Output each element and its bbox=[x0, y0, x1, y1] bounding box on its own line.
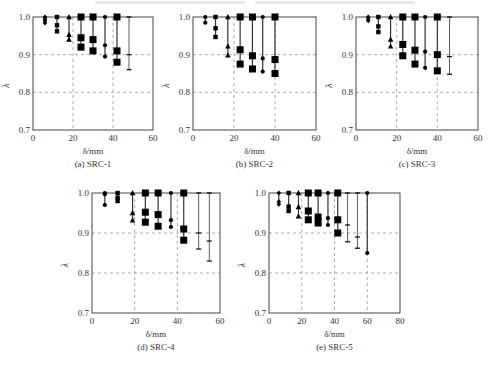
y-axis-label: λ bbox=[59, 262, 70, 268]
big-square-marker bbox=[78, 34, 85, 41]
grid-lines bbox=[92, 193, 220, 313]
x-tick-label: 60 bbox=[149, 133, 159, 143]
circle-marker bbox=[326, 216, 330, 220]
big-square-marker bbox=[114, 47, 121, 54]
chart-c: 02040600.70.80.91.0δ/mmλ(c) SRC-3 bbox=[323, 12, 483, 169]
big-square-marker bbox=[142, 209, 149, 216]
data-group bbox=[296, 190, 302, 218]
chart-d: 02040600.70.80.91.0δ/mmλ(d) SRC-4 bbox=[59, 188, 225, 352]
x-tick-label: 40 bbox=[271, 133, 281, 143]
x-tick-label: 40 bbox=[109, 133, 119, 143]
triangle-marker bbox=[66, 37, 72, 42]
data-group bbox=[315, 190, 322, 227]
y-axis-label: λ bbox=[236, 262, 247, 268]
data-group bbox=[423, 15, 427, 70]
y-axis-label: λ bbox=[160, 83, 171, 89]
big-square-marker bbox=[249, 52, 256, 59]
big-square-marker bbox=[305, 190, 312, 197]
triangle-marker bbox=[296, 213, 302, 218]
data-group bbox=[90, 14, 97, 55]
y-tick-label: 0.8 bbox=[179, 87, 191, 97]
big-square-marker bbox=[155, 190, 162, 197]
circle-marker bbox=[423, 50, 427, 54]
x-tick-label: 60 bbox=[474, 133, 484, 143]
big-square-marker bbox=[78, 44, 85, 51]
big-square-marker bbox=[114, 14, 121, 21]
data-group bbox=[434, 14, 441, 75]
small-square-marker bbox=[115, 191, 119, 195]
data-group bbox=[237, 14, 244, 68]
big-square-marker bbox=[180, 237, 187, 244]
circle-marker bbox=[261, 70, 265, 74]
data-group bbox=[326, 191, 330, 227]
small-square-marker bbox=[55, 23, 59, 27]
big-square-marker bbox=[155, 211, 162, 218]
data-group bbox=[115, 191, 119, 203]
data-group bbox=[155, 190, 162, 230]
data-group bbox=[399, 14, 406, 60]
data-group bbox=[55, 15, 59, 34]
triangle-marker bbox=[296, 204, 302, 209]
data-group bbox=[366, 15, 371, 24]
big-square-marker bbox=[180, 190, 187, 197]
grid-lines bbox=[193, 17, 316, 130]
y-tick-label: 0.7 bbox=[179, 125, 191, 135]
data-group bbox=[355, 193, 360, 248]
big-square-marker bbox=[434, 67, 441, 74]
data-group bbox=[196, 193, 201, 249]
chart-caption: (c) SRC-3 bbox=[399, 159, 436, 169]
triangle-marker bbox=[388, 43, 394, 48]
x-axis-label: δ/mm bbox=[324, 329, 345, 339]
chart-b: 02040600.70.80.91.0δ/mmλ(b) SRC-2 bbox=[160, 12, 321, 169]
y-axis-label: λ bbox=[0, 83, 11, 89]
plot-frame bbox=[92, 193, 220, 313]
data-group bbox=[103, 191, 107, 207]
big-square-marker bbox=[315, 214, 322, 221]
big-square-marker bbox=[237, 61, 244, 68]
x-tick-label: 0 bbox=[354, 133, 359, 143]
circle-marker bbox=[103, 54, 107, 58]
y-tick-label: 0.9 bbox=[19, 50, 31, 60]
chart-a: 02040600.70.80.91.0δ/mmλ(a) SRC-1 bbox=[0, 12, 158, 169]
chart-caption: (d) SRC-4 bbox=[137, 342, 175, 352]
big-square-marker bbox=[411, 14, 418, 21]
data-group bbox=[447, 17, 452, 74]
x-tick-label: 20 bbox=[69, 133, 79, 143]
small-square-marker bbox=[115, 199, 119, 203]
y-tick-label: 0.9 bbox=[342, 50, 354, 60]
small-square-marker bbox=[213, 15, 217, 19]
big-square-marker bbox=[249, 14, 256, 21]
circle-marker bbox=[169, 225, 173, 229]
big-square-marker bbox=[399, 14, 406, 21]
big-square-marker bbox=[155, 223, 162, 230]
chart-e: 0204060800.70.80.91.0δ/mmλ(e) SRC-5 bbox=[236, 188, 405, 352]
circle-marker bbox=[103, 43, 107, 47]
big-square-marker bbox=[90, 36, 97, 43]
big-square-marker bbox=[434, 14, 441, 21]
grid-lines bbox=[356, 17, 478, 130]
big-square-marker bbox=[334, 190, 341, 197]
big-square-marker bbox=[237, 14, 244, 21]
big-square-marker bbox=[142, 190, 149, 197]
chart-caption: (b) SRC-2 bbox=[236, 159, 273, 169]
y-tick-label: 1.0 bbox=[19, 12, 31, 22]
chart-caption: (e) SRC-5 bbox=[316, 342, 353, 352]
circle-marker bbox=[103, 192, 107, 196]
plot-frame bbox=[193, 17, 316, 130]
x-axis-label: δ/mm bbox=[244, 146, 265, 156]
data-group bbox=[376, 15, 380, 34]
big-square-marker bbox=[334, 216, 341, 223]
y-tick-label: 0.7 bbox=[342, 125, 354, 135]
circle-marker bbox=[103, 203, 107, 207]
x-tick-label: 20 bbox=[230, 133, 240, 143]
data-group bbox=[345, 193, 350, 242]
y-tick-label: 0.9 bbox=[78, 228, 90, 238]
circle-marker bbox=[203, 15, 207, 19]
y-tick-label: 1.0 bbox=[342, 12, 354, 22]
big-square-marker bbox=[180, 226, 187, 233]
x-tick-label: 20 bbox=[297, 316, 307, 326]
data-group bbox=[127, 17, 132, 70]
small-square-marker bbox=[376, 15, 380, 19]
data-group bbox=[66, 14, 72, 42]
y-tick-label: 0.8 bbox=[19, 87, 31, 97]
